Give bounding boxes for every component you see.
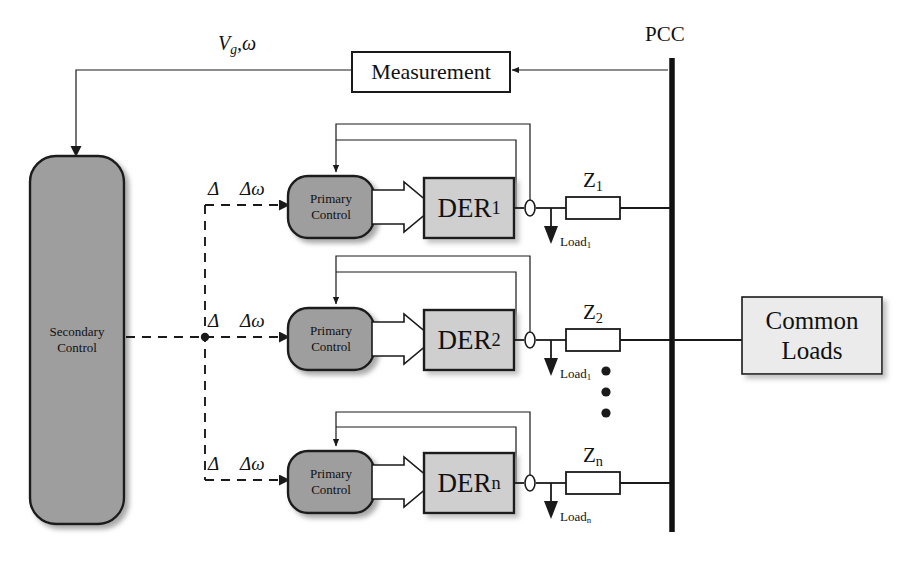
der-label-1: DER1 — [424, 178, 514, 238]
der-1-main: DER — [437, 193, 491, 224]
feedback-signal-tail: ,ω — [237, 32, 256, 54]
delta-omega-label-branch-2: Δω — [240, 310, 265, 332]
primary-control-n-line2: Control — [311, 482, 351, 498]
der-2-main: DER — [437, 325, 491, 356]
delta-omega-label-branch-1: Δω — [240, 178, 265, 200]
common-loads-line2: Loads — [781, 336, 842, 366]
impedance-2-sub: 2 — [596, 310, 603, 326]
vertical-ellipsis-dots — [601, 366, 610, 417]
delta-omega-symbol-1: Δω — [240, 178, 265, 199]
branch-2-load-arrow — [544, 358, 558, 376]
primary-control-1-line2: Control — [311, 207, 351, 223]
feedback-signal-main: V — [218, 32, 230, 54]
branch-1-breaker-node[interactable] — [525, 200, 535, 216]
delta-symbol-2: Δ — [208, 310, 219, 331]
der-1-sub: 1 — [491, 198, 500, 219]
common-loads-line1: Common — [765, 306, 858, 336]
der-label-2: DER2 — [424, 310, 514, 370]
delta-symbol-1: Δ — [208, 178, 219, 199]
secondary-control-line1: Secondary — [50, 324, 105, 340]
der-n-sub: n — [491, 473, 500, 494]
branch-n-load-arrow — [544, 501, 558, 519]
branch-1-load-arrow — [544, 226, 558, 244]
impedance-2-main: Z — [583, 300, 596, 324]
impedance-n-main: Z — [583, 443, 596, 467]
impedance-block-n — [566, 472, 620, 494]
load-label-1: Load1 — [560, 234, 591, 250]
load-2-sub: 1 — [587, 372, 591, 382]
secondary-control-line2: Control — [57, 340, 97, 356]
impedance-label-2: Z2 — [583, 300, 603, 327]
der-label-n: DERn — [424, 453, 514, 513]
primary-control-label-2: Primary Control — [288, 308, 374, 370]
impedance-block-2 — [566, 329, 620, 351]
diagram-canvas: PCC Vg,ω Measurement Secondary Control C… — [0, 0, 911, 571]
impedance-block-1 — [566, 197, 620, 219]
delta-label-branch-2: Δ — [208, 310, 219, 332]
impedance-1-main: Z — [583, 168, 596, 192]
impedance-1-sub: 1 — [596, 178, 603, 194]
delta-omega-label-branch-n: Δω — [240, 453, 265, 475]
delta-label-branch-n: Δ — [208, 453, 219, 475]
delta-omega-symbol-2: Δω — [240, 310, 265, 331]
primary-control-2-line2: Control — [311, 339, 351, 355]
load-label-n: Loadn — [560, 509, 591, 525]
secondary-to-primary-dashed-bus — [126, 205, 205, 480]
primary-control-n-line1: Primary — [310, 466, 352, 482]
delta-symbol-n: Δ — [208, 453, 219, 474]
branch-n-breaker-node[interactable] — [525, 475, 535, 491]
primary-control-2-line1: Primary — [310, 323, 352, 339]
load-1-main: Load — [560, 234, 587, 249]
impedance-label-n: Zn — [583, 443, 603, 470]
pcc-label: PCC — [645, 22, 685, 47]
impedance-n-sub: n — [596, 453, 603, 469]
impedance-label-1: Z1 — [583, 168, 603, 195]
feedback-signal-label: Vg,ω — [218, 32, 256, 58]
load-label-2: Load1 — [560, 366, 591, 382]
primary-control-label-1: Primary Control — [288, 176, 374, 238]
load-2-main: Load — [560, 366, 587, 381]
der-2-sub: 2 — [491, 330, 500, 351]
secondary-control-label: Secondary Control — [30, 156, 124, 524]
der-n-main: DER — [437, 468, 491, 499]
delta-label-branch-1: Δ — [208, 178, 219, 200]
delta-omega-symbol-n: Δω — [240, 453, 265, 474]
common-loads-label: Common Loads — [742, 297, 882, 374]
feedback-signal-sub: g — [230, 42, 237, 57]
load-1-sub: 1 — [587, 240, 591, 250]
measurement-label: Measurement — [352, 52, 510, 92]
branch-2-breaker-node[interactable] — [525, 332, 535, 348]
primary-control-label-n: Primary Control — [288, 451, 374, 513]
load-n-sub: n — [587, 515, 591, 525]
primary-control-1-line1: Primary — [310, 191, 352, 207]
load-n-main: Load — [560, 509, 587, 524]
